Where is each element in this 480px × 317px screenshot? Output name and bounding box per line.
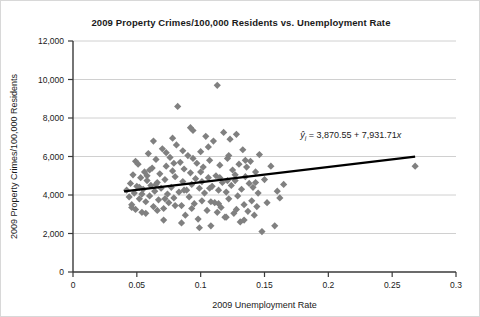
data-point-marker [174, 103, 181, 110]
data-point-marker [220, 129, 227, 136]
data-point-marker [166, 154, 173, 161]
data-point-marker [203, 207, 210, 214]
data-point-marker [195, 215, 202, 222]
data-point-marker [163, 163, 170, 170]
y-tick-label: 8,000 [43, 113, 65, 123]
data-point-marker [170, 160, 177, 167]
data-point-marker [146, 192, 153, 199]
data-point-marker [182, 212, 189, 219]
data-point-marker [261, 176, 268, 183]
x-tick-label: 0.05 [129, 280, 146, 290]
data-point-marker [223, 214, 230, 221]
data-point-marker [240, 201, 247, 208]
data-point-marker [255, 189, 262, 196]
data-point-marker [263, 199, 270, 206]
data-point-marker [412, 163, 419, 170]
data-point-marker [206, 157, 213, 164]
data-point-marker [267, 163, 274, 170]
data-point-marker [256, 151, 263, 158]
data-point-marker [198, 197, 205, 204]
data-point-marker [207, 222, 214, 229]
data-point-marker [242, 157, 249, 164]
data-point-marker [169, 135, 176, 142]
data-point-marker [127, 180, 134, 187]
y-tick-label: 0 [59, 267, 64, 277]
data-point-marker [251, 212, 258, 219]
y-axis-label: 2009 Property Crimes/100,000 Residents [9, 73, 19, 239]
data-point-marker [172, 202, 179, 209]
x-tick-label: 0.3 [450, 280, 462, 290]
data-point-marker [193, 160, 200, 167]
x-tick-label: 0 [71, 280, 76, 290]
data-points [123, 82, 419, 236]
data-point-marker [155, 196, 162, 203]
data-point-marker [274, 188, 281, 195]
data-point-marker [179, 147, 186, 154]
y-tick-label: 10,000 [38, 75, 64, 85]
data-point-marker [129, 171, 136, 178]
data-point-marker [187, 169, 194, 176]
data-point-marker [233, 131, 240, 138]
data-point-marker [156, 170, 163, 177]
y-tick-label: 6,000 [43, 152, 65, 162]
y-tick-label: 4,000 [43, 190, 65, 200]
data-point-marker [197, 148, 204, 155]
data-point-marker [180, 165, 187, 172]
data-point-marker [243, 163, 250, 170]
regression-equation-annotation: ŷi = 3,870.55 + 7,931.71x [299, 130, 402, 142]
data-point-marker [214, 209, 221, 216]
data-point-marker [214, 82, 221, 89]
y-tick-label: 12,000 [38, 36, 64, 46]
data-point-marker [238, 186, 245, 193]
data-point-marker [280, 181, 287, 188]
data-point-marker [234, 192, 241, 199]
data-point-marker [201, 189, 208, 196]
data-point-marker [186, 193, 193, 200]
x-tick-label: 0.2 [322, 280, 334, 290]
data-point-marker [239, 146, 246, 153]
data-point-marker [216, 162, 223, 169]
data-point-marker [248, 197, 255, 204]
data-point-marker [225, 195, 232, 202]
x-tick-label: 0.1 [195, 280, 207, 290]
data-point-marker [161, 176, 168, 183]
data-point-marker [142, 198, 149, 205]
y-axis-ticks: 02,0004,0006,0008,00010,00012,000 [38, 36, 73, 277]
x-axis-label: 2009 Unemployment Rate [212, 300, 317, 310]
x-axis-ticks: 00.050.10.150.20.250.3 [71, 272, 463, 290]
data-point-marker [235, 161, 242, 168]
data-point-marker [196, 224, 203, 231]
scatter-plot-canvas: 02,0004,0006,0008,00010,00012,000 00.050… [1, 1, 480, 317]
data-point-marker [244, 208, 251, 215]
data-point-marker [202, 133, 209, 140]
chart-figure: 2009 Property Crimes/100,000 Residents v… [0, 0, 480, 317]
data-point-marker [228, 182, 235, 189]
data-point-marker [271, 222, 278, 229]
data-point-marker [196, 185, 203, 192]
data-point-marker [178, 202, 185, 209]
data-point-marker [226, 136, 233, 143]
data-point-marker [160, 205, 167, 212]
data-point-marker [137, 174, 144, 181]
data-point-marker [205, 143, 212, 150]
x-tick-label: 0.15 [256, 280, 273, 290]
data-point-marker [192, 175, 199, 182]
data-point-marker [150, 138, 157, 145]
data-point-marker [177, 159, 184, 166]
y-tick-label: 2,000 [43, 229, 65, 239]
data-point-marker [258, 228, 265, 235]
data-point-marker [126, 193, 133, 200]
data-point-marker [253, 203, 260, 210]
regression-trendline [124, 157, 415, 192]
data-point-marker [178, 219, 185, 226]
x-tick-label: 0.25 [384, 280, 401, 290]
data-point-marker [160, 216, 167, 223]
data-point-marker [173, 141, 180, 148]
data-point-marker [215, 187, 222, 194]
data-point-marker [210, 138, 217, 145]
